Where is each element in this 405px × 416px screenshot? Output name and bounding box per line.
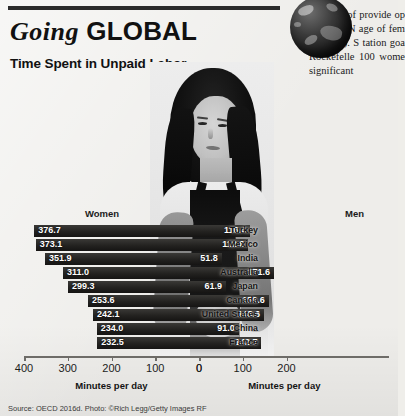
globe-landmass-3 bbox=[294, 22, 301, 27]
axis-tick bbox=[287, 356, 289, 361]
bar-value-women: 242.1 bbox=[97, 309, 120, 321]
axis-tick bbox=[199, 356, 201, 361]
series-label-men: Men bbox=[345, 208, 364, 219]
country-label: Turkey bbox=[140, 224, 258, 237]
axis-title-right: Minutes per day bbox=[248, 380, 320, 391]
country-label: Australia bbox=[140, 266, 258, 279]
axis-tick-label: 100 bbox=[234, 362, 252, 374]
country-label: India bbox=[140, 252, 258, 265]
axis-tick bbox=[155, 356, 157, 361]
headline-going: Going bbox=[10, 17, 79, 46]
bar-value-women: 373.1 bbox=[40, 239, 63, 251]
axis-tick bbox=[24, 356, 26, 361]
chart-row: 253.6159.6Canada bbox=[0, 294, 398, 308]
bar-value-women: 253.6 bbox=[92, 295, 115, 307]
bar-value-women: 299.3 bbox=[72, 281, 95, 293]
chart-row: 234.091.0China bbox=[0, 322, 398, 336]
chart-row: 351.951.8India bbox=[0, 252, 398, 266]
chart-rows: 376.7116.4Turkey373.1112.6Mexico351.951.… bbox=[0, 224, 398, 350]
bar-value-women: 376.7 bbox=[38, 225, 61, 237]
axis-tick bbox=[68, 356, 70, 361]
unpaid-labor-chart: Women Men 376.7116.4Turkey373.1112.6Mexi… bbox=[0, 208, 398, 378]
header-rule bbox=[8, 6, 280, 10]
photo-nose bbox=[208, 128, 213, 139]
figure-headline: Going GLOBAL bbox=[10, 16, 197, 47]
globe-landmass-1 bbox=[325, 2, 339, 13]
axis-title-left: Minutes per day bbox=[75, 380, 147, 391]
bar-value-women: 234.0 bbox=[101, 323, 124, 335]
country-label: France bbox=[140, 336, 258, 349]
axis-tick-label: 0 bbox=[196, 362, 202, 374]
globe-landmass-2 bbox=[303, 33, 319, 47]
axis-tick-label: 400 bbox=[15, 362, 33, 374]
bar-value-women: 311.0 bbox=[67, 267, 89, 279]
axis-tick bbox=[243, 356, 245, 361]
country-label: China bbox=[140, 322, 258, 335]
headline-global: GLOBAL bbox=[86, 16, 197, 46]
figure-source: Source: OECD 2016d. Photo: ©Rich Legg/Ge… bbox=[8, 404, 207, 413]
chart-row: 242.1148.6United States bbox=[0, 308, 398, 322]
series-label-women: Women bbox=[85, 208, 119, 219]
axis-tick-label: 200 bbox=[102, 362, 120, 374]
axis-tick bbox=[112, 356, 114, 361]
chart-row: 311.0171.6Australia bbox=[0, 266, 398, 280]
axis-tick-label: 200 bbox=[277, 362, 295, 374]
chart-row: 299.361.9Japan bbox=[0, 280, 398, 294]
axis-tick-label: 100 bbox=[146, 362, 164, 374]
country-label: Canada bbox=[140, 294, 258, 307]
chart-row: 376.7116.4Turkey bbox=[0, 224, 398, 238]
country-label: Japan bbox=[140, 280, 258, 293]
axis-line-right bbox=[199, 356, 389, 358]
axis-tick-label: 300 bbox=[59, 362, 77, 374]
country-label: Mexico bbox=[140, 238, 258, 251]
chart-row: 373.1112.6Mexico bbox=[0, 238, 398, 252]
photo-eye-right bbox=[218, 124, 227, 127]
photo-eye-left bbox=[198, 122, 207, 125]
country-label: United States bbox=[140, 308, 258, 321]
chart-row: 232.5142.7France bbox=[0, 336, 398, 350]
bar-value-women: 232.5 bbox=[101, 337, 124, 349]
bar-value-women: 351.9 bbox=[49, 253, 72, 265]
